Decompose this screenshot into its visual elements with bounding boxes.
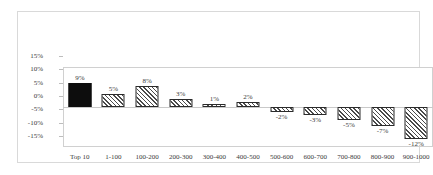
bar-group: 5% — [97, 67, 131, 147]
bar[interactable] — [337, 107, 360, 120]
bar[interactable] — [68, 83, 91, 107]
bar-group: -12% — [399, 67, 433, 147]
bar[interactable] — [169, 99, 192, 107]
bar-value-label: 1% — [210, 95, 219, 103]
y-tick-label: 10% — [18, 65, 43, 73]
bar[interactable] — [236, 102, 259, 107]
x-tick-label: 300-400 — [198, 153, 232, 162]
bar-group: 9% — [63, 67, 97, 147]
bar[interactable] — [405, 107, 428, 139]
y-tick-label: 5% — [18, 79, 43, 87]
bar[interactable] — [371, 107, 394, 126]
x-tick-label: 100-200 — [130, 153, 164, 162]
x-tick-label: 400-500 — [231, 153, 265, 162]
x-tick-label: 500-600 — [265, 153, 299, 162]
bar-series: 9%5%8%3%1%2%-2%-3%-5%-7%-12% — [63, 67, 433, 147]
bar[interactable] — [304, 107, 327, 115]
x-tick-label: 600-700 — [298, 153, 332, 162]
x-tick-label: Top 10 — [63, 153, 97, 162]
bar-group: 3% — [164, 67, 198, 147]
bar-value-label: 3% — [176, 90, 185, 98]
bar-group: -3% — [298, 67, 332, 147]
bar-group: 2% — [231, 67, 265, 147]
y-tick-label: 0% — [18, 92, 43, 100]
bar-value-label: -7% — [377, 127, 389, 135]
y-tick-label: -15% — [18, 132, 43, 140]
bar[interactable] — [203, 104, 226, 107]
bar-group: 1% — [198, 67, 232, 147]
bar-group: -2% — [265, 67, 299, 147]
bar-group: -7% — [366, 67, 400, 147]
y-tick-label: -10% — [18, 119, 43, 127]
bar-value-label: -3% — [309, 116, 321, 124]
bar-value-label: -5% — [343, 121, 355, 129]
bar-group: 8% — [130, 67, 164, 147]
bar-value-label: 8% — [142, 77, 151, 85]
bar-value-label: 9% — [75, 74, 84, 82]
y-tick-label: -5% — [18, 105, 43, 113]
bar-value-label: 5% — [109, 85, 118, 93]
x-axis: Top 101-100100-200200-300300-400400-5005… — [63, 153, 433, 165]
bar[interactable] — [102, 94, 125, 107]
bar-value-label: 2% — [243, 93, 252, 101]
bar-value-label: -12% — [409, 140, 424, 148]
bar-group: -5% — [332, 67, 366, 147]
y-tick-label: 15% — [18, 52, 43, 60]
x-tick-label: 700-800 — [332, 153, 366, 162]
y-tick-mark — [59, 56, 63, 57]
bar[interactable] — [136, 86, 159, 107]
x-tick-label: 200-300 — [164, 153, 198, 162]
x-tick-label: 800-900 — [366, 153, 400, 162]
bar-value-label: -2% — [276, 113, 288, 121]
x-tick-label: 900-1000 — [399, 153, 433, 162]
bar[interactable] — [270, 107, 293, 112]
chart-frame: 15%10%5%0%-5%-10%-15% 9%5%8%3%1%2%-2%-3%… — [17, 11, 420, 163]
x-tick-label: 1-100 — [97, 153, 131, 162]
